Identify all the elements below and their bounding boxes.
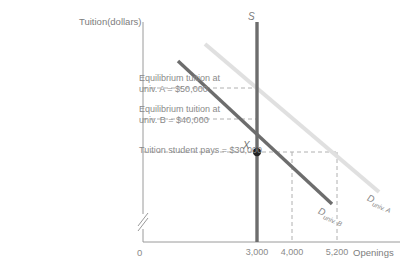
- tuition-supply-demand-chart: Tuition(dollars) Equilibrium tuition at …: [0, 0, 416, 264]
- x-tick-label-4000: 4,000: [292, 247, 315, 258]
- axis-break-icon: [138, 213, 148, 231]
- chart-canvas: [0, 0, 416, 264]
- x-tick-5200-text: 5,200: [326, 247, 349, 258]
- x-tick-label-3000: 3,000: [257, 247, 280, 258]
- supply-curve-label: S: [248, 11, 255, 24]
- y-axis-title: Tuition(dollars): [79, 16, 141, 28]
- x-tick-4000-text: 4,000: [281, 247, 304, 258]
- point-x-label: X: [243, 140, 250, 153]
- x-axis-title: Openings: [353, 247, 394, 259]
- x-tick-3000-text: 3,000: [246, 247, 269, 258]
- origin-label: 0: [137, 247, 142, 259]
